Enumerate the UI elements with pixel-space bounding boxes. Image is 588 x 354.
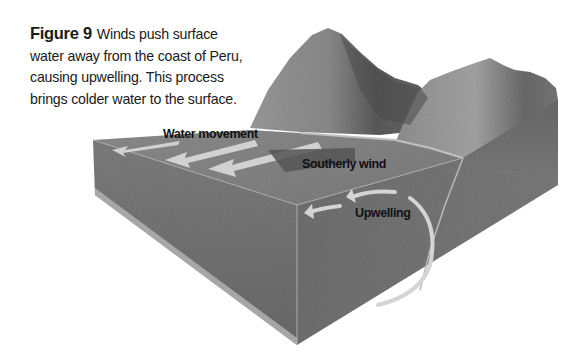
- caption-line: brings colder water to the surface.: [30, 91, 237, 107]
- upwelling-label: Upwelling: [355, 206, 410, 220]
- upwelling-figure: Figure 9Winds push surface water away fr…: [0, 0, 588, 354]
- figure-label: Figure 9: [30, 24, 92, 42]
- caption-line: Winds push surface: [97, 26, 218, 42]
- caption-line: causing upwelling. This process: [30, 69, 224, 85]
- figure-caption: Figure 9Winds push surface water away fr…: [30, 23, 255, 110]
- water-movement-label: Water movement: [163, 127, 258, 141]
- caption-line: water away from the coast of Peru,: [30, 48, 242, 64]
- southerly-wind-label: Southerly wind: [302, 157, 386, 171]
